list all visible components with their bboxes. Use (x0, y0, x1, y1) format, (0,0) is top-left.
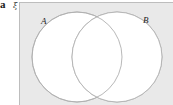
circle-set-b-fill (72, 12, 162, 102)
venn-diagram-figure: a ξ A B (0, 0, 173, 105)
universal-set-symbol: ξ (13, 1, 17, 10)
set-b-label: B (143, 16, 149, 25)
part-label: a (0, 0, 6, 10)
set-a-label: A (41, 17, 47, 26)
